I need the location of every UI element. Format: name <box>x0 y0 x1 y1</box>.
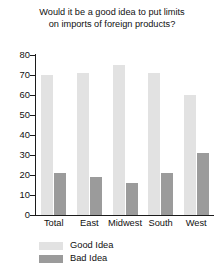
bar <box>184 95 196 215</box>
legend-item-good-idea: Good Idea <box>39 240 113 252</box>
y-axis-tick-label-text: 70 <box>4 70 30 79</box>
bar <box>113 65 125 215</box>
bar-chart: Would it be a good idea to put limits on… <box>0 0 220 276</box>
legend-item-bad-idea: Bad Idea <box>39 253 113 265</box>
y-axis-tick-label: 80 <box>0 50 30 60</box>
y-axis-tick <box>30 195 35 196</box>
y-axis-tick <box>30 155 35 156</box>
bar-group <box>77 55 102 215</box>
y-axis-tick <box>30 175 35 176</box>
y-axis-tick-label: 0 <box>0 210 30 220</box>
y-axis-tick <box>30 135 35 136</box>
chart-title-line-1: Would it be a good idea to put limits <box>22 7 202 19</box>
y-axis-tick <box>30 55 35 56</box>
chart-title-line-2: on imports of foreign products? <box>22 19 202 31</box>
bar <box>77 73 89 215</box>
bar-group <box>41 55 66 215</box>
bar-group <box>184 55 209 215</box>
y-axis-tick-label: 20 <box>0 170 30 180</box>
y-axis-tick <box>30 115 35 116</box>
y-axis-tick-label-text: 80 <box>4 50 30 59</box>
y-axis-tick-label: 50 <box>0 110 30 120</box>
y-axis-tick <box>30 75 35 76</box>
bar-group <box>148 55 173 215</box>
bar <box>197 153 209 215</box>
y-axis-tick-label-text: 40 <box>4 130 30 139</box>
y-axis-tick-label: 30 <box>0 150 30 160</box>
y-axis-tick-label-text: 20 <box>4 170 30 179</box>
bar <box>126 183 138 215</box>
bar <box>161 173 173 215</box>
y-axis-tick-label-text: 30 <box>4 150 30 159</box>
y-axis-tick-label-text: 50 <box>4 110 30 119</box>
bar <box>54 173 66 215</box>
y-axis-tick-label: 10 <box>0 190 30 200</box>
y-axis-tick-label: 60 <box>0 90 30 100</box>
bar <box>90 177 102 215</box>
y-axis-tick-label: 70 <box>0 70 30 80</box>
y-axis-tick <box>30 95 35 96</box>
bar <box>148 73 160 215</box>
legend-label-good-idea: Good Idea <box>70 241 113 250</box>
legend-label-bad-idea: Bad Idea <box>70 254 107 263</box>
y-axis-tick-label-text: 60 <box>4 90 30 99</box>
x-axis-label-total: Total <box>36 218 72 228</box>
legend-swatch-bad-idea <box>39 255 63 263</box>
y-axis-tick-label-text: 0 <box>4 210 30 219</box>
x-axis-line <box>35 215 214 216</box>
x-axis-label-midwest: Midwest <box>107 218 143 228</box>
chart-title: Would it be a good idea to put limits on… <box>22 7 202 30</box>
x-axis-label-east: East <box>72 218 108 228</box>
bar <box>41 75 53 215</box>
x-axis-label-west: West <box>178 218 214 228</box>
y-axis-tick-label: 40 <box>0 130 30 140</box>
y-axis-tick <box>30 215 35 216</box>
x-axis-label-south: South <box>143 218 179 228</box>
bar-group <box>113 55 138 215</box>
legend-swatch-good-idea <box>39 242 63 250</box>
plot-area <box>36 55 214 215</box>
chart-legend: Good Idea Bad Idea <box>39 240 113 266</box>
y-axis-tick-label-text: 10 <box>4 190 30 199</box>
